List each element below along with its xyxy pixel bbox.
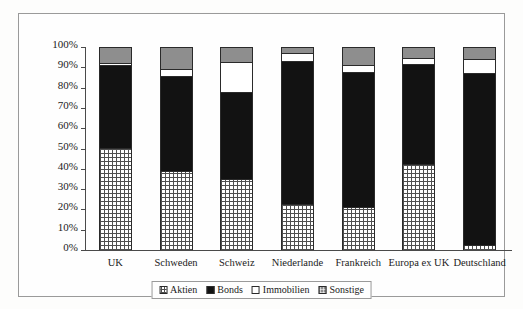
- x-label-europa-ex-uk: Europa ex UK: [389, 257, 450, 269]
- y-tick-mark: [81, 88, 85, 89]
- y-tick-label: 0%: [63, 242, 78, 253]
- segment-bonds: [221, 93, 252, 180]
- legend-label: Sonstige: [330, 284, 364, 295]
- segment-sonstige: [161, 48, 192, 70]
- chart-legend: AktienBondsImmobilienSonstige: [151, 281, 372, 299]
- y-tick-mark: [81, 149, 85, 150]
- segment-immobilien: [221, 63, 252, 93]
- legend-label: Immobilien: [263, 284, 310, 295]
- legend-label: Bonds: [217, 284, 243, 295]
- y-tick-mark: [81, 230, 85, 231]
- segment-aktien: [161, 172, 192, 250]
- x-axis-line: [85, 250, 512, 251]
- bar-europa-ex-uk: [402, 47, 435, 250]
- segment-aktien: [100, 149, 131, 250]
- bar-frankreich: [342, 47, 375, 250]
- bar-uk: [99, 47, 132, 250]
- y-tick-label: 60%: [58, 120, 78, 131]
- x-label-frankreich: Frankreich: [328, 257, 389, 269]
- segment-bonds: [161, 77, 192, 172]
- x-label-uk: UK: [85, 257, 146, 269]
- legend-label: Aktien: [170, 284, 197, 295]
- segment-immobilien: [161, 70, 192, 77]
- segment-immobilien: [464, 60, 495, 74]
- segment-bonds: [100, 66, 131, 149]
- y-tick-label: 90%: [58, 59, 78, 70]
- segment-aktien: [221, 180, 252, 250]
- y-tick-label: 70%: [58, 100, 78, 111]
- aktien-swatch-icon: [159, 286, 167, 294]
- segment-aktien: [464, 246, 495, 250]
- bar-schweden: [160, 47, 193, 250]
- immobilien-swatch-icon: [252, 286, 260, 294]
- y-tick-mark: [81, 108, 85, 109]
- segment-immobilien: [343, 66, 374, 73]
- segment-bonds: [403, 65, 434, 165]
- bar-schweiz: [220, 47, 253, 250]
- segment-bonds: [464, 74, 495, 246]
- segment-aktien: [282, 205, 313, 250]
- y-tick-mark: [81, 128, 85, 129]
- segment-sonstige: [464, 48, 495, 60]
- bar-niederlande: [281, 47, 314, 250]
- segment-bonds: [282, 62, 313, 204]
- segment-immobilien: [282, 54, 313, 62]
- y-tick-mark: [81, 189, 85, 190]
- plot-area: 100%90%80%70%60%50%40%30%20%10%0%: [85, 47, 510, 250]
- bonds-swatch-icon: [206, 286, 214, 294]
- segment-sonstige: [343, 48, 374, 66]
- y-tick-label: 30%: [58, 181, 78, 192]
- y-tick-label: 80%: [58, 80, 78, 91]
- segment-sonstige: [221, 48, 252, 63]
- segment-bonds: [343, 73, 374, 207]
- chart-frame: 100%90%80%70%60%50%40%30%20%10%0% UKSchw…: [18, 13, 505, 297]
- y-tick-mark: [81, 67, 85, 68]
- legend-item-sonstige[interactable]: Sonstige: [319, 284, 364, 295]
- bar-deutschland: [463, 47, 496, 250]
- x-label-niederlande: Niederlande: [267, 257, 328, 269]
- y-tick-mark: [81, 169, 85, 170]
- y-tick-label: 100%: [52, 39, 78, 50]
- y-tick-label: 10%: [58, 222, 78, 233]
- x-label-schweiz: Schweiz: [206, 257, 267, 269]
- sonstige-swatch-icon: [319, 286, 327, 294]
- segment-aktien: [343, 208, 374, 250]
- segment-sonstige: [100, 48, 131, 64]
- legend-item-aktien[interactable]: Aktien: [159, 284, 197, 295]
- y-tick-mark: [81, 250, 85, 251]
- y-tick-label: 50%: [58, 141, 78, 152]
- x-label-schweden: Schweden: [146, 257, 207, 269]
- y-tick-mark: [81, 47, 85, 48]
- segment-sonstige: [403, 48, 434, 59]
- scanned-page: 100%90%80%70%60%50%40%30%20%10%0% UKSchw…: [0, 0, 523, 309]
- y-tick-label: 40%: [58, 161, 78, 172]
- legend-item-immobilien[interactable]: Immobilien: [252, 284, 310, 295]
- x-label-deutschland: Deutschland: [449, 257, 510, 269]
- segment-aktien: [403, 165, 434, 250]
- legend-item-bonds[interactable]: Bonds: [206, 284, 243, 295]
- y-tick-mark: [81, 209, 85, 210]
- y-tick-label: 20%: [58, 201, 78, 212]
